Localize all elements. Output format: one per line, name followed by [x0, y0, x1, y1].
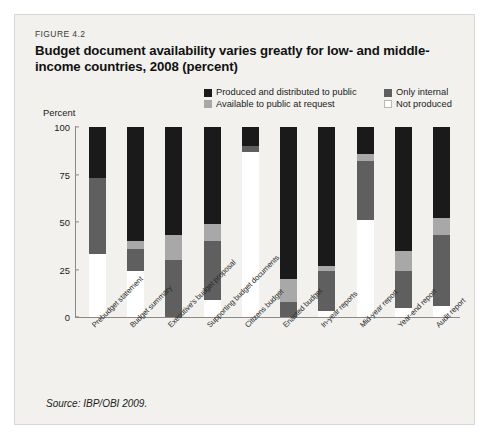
legend-swatch-produced-public — [204, 89, 212, 97]
figure-title: Budget document availability varies grea… — [35, 43, 455, 74]
bar-segment-only-internal — [357, 161, 374, 220]
bar-segment-produced-and-distributed-to-public — [357, 127, 374, 154]
y-axis-label: Percent — [43, 107, 75, 118]
legend-label-produced-public: Produced and distributed to public — [216, 87, 357, 99]
y-tick-label: 100 — [54, 122, 70, 133]
y-tick-mark — [75, 126, 79, 127]
bar-segment-produced-and-distributed-to-public — [127, 127, 144, 241]
y-axis-ticks: 0255075100 — [43, 127, 70, 317]
bar-segment-produced-and-distributed-to-public — [395, 127, 412, 251]
y-tick-mark — [75, 316, 79, 317]
legend-item-produced-public: Produced and distributed to public — [204, 87, 384, 99]
bar-segment-only-internal — [89, 178, 106, 254]
bar-segment-available-to-public-at-request — [395, 251, 412, 272]
legend-label-not-produced: Not produced — [396, 99, 452, 111]
bar-audit-report[interactable] — [433, 127, 450, 317]
legend-swatch-available-on-request — [204, 100, 212, 108]
bar-prebudget-statement[interactable] — [89, 127, 106, 317]
bar-segment-produced-and-distributed-to-public — [204, 127, 221, 224]
legend-label-available-on-request: Available to public at request — [216, 99, 335, 111]
y-tick-label: 50 — [60, 217, 70, 228]
legend-row-2: Available to public at request Not produ… — [204, 99, 476, 111]
bar-segment-available-to-public-at-request — [127, 241, 144, 249]
chart-legend: Produced and distributed to public Only … — [204, 87, 476, 110]
legend-item-not-produced: Not produced — [384, 99, 452, 111]
bar-segment-produced-and-distributed-to-public — [280, 127, 297, 279]
bar-segment-produced-and-distributed-to-public — [242, 127, 259, 146]
bar-segment-only-internal — [242, 146, 259, 152]
y-tick-label: 75 — [60, 169, 70, 180]
legend-row-1: Produced and distributed to public Only … — [204, 87, 476, 99]
y-tick-mark — [75, 221, 79, 222]
legend-swatch-only-internal — [384, 89, 392, 97]
bar-segment-only-internal — [395, 271, 412, 307]
legend-swatch-not-produced — [384, 100, 392, 108]
bar-enacted-budget[interactable] — [280, 127, 297, 317]
legend-item-only-internal: Only internal — [384, 87, 448, 99]
legend-item-available-on-request: Available to public at request — [204, 99, 384, 111]
y-tick-label: 25 — [60, 264, 70, 275]
bar-mid-year-report[interactable] — [357, 127, 374, 317]
bar-segment-not-produced — [357, 220, 374, 317]
bar-segment-available-to-public-at-request — [204, 224, 221, 241]
bar-segment-available-to-public-at-request — [318, 266, 335, 272]
y-tick-mark — [75, 174, 79, 175]
bar-segment-produced-and-distributed-to-public — [165, 127, 182, 235]
y-tick-label: 0 — [65, 312, 70, 323]
legend-label-only-internal: Only internal — [396, 87, 448, 99]
bar-segment-not-produced — [89, 254, 106, 317]
bar-segment-available-to-public-at-request — [433, 218, 450, 235]
bar-segment-available-to-public-at-request — [357, 154, 374, 162]
source-note: Source: IBP/OBI 2009. — [46, 398, 147, 409]
bar-segment-available-to-public-at-request — [165, 235, 182, 260]
bar-segment-only-internal — [127, 249, 144, 272]
bar-year-end-report[interactable] — [395, 127, 412, 317]
y-tick-mark — [75, 269, 79, 270]
bar-segment-produced-and-distributed-to-public — [433, 127, 450, 218]
figure-panel: FIGURE 4.2 Budget document availability … — [14, 14, 475, 425]
bar-segment-produced-and-distributed-to-public — [318, 127, 335, 266]
bar-segment-produced-and-distributed-to-public — [89, 127, 106, 178]
figure-number: FIGURE 4.2 — [35, 29, 85, 39]
